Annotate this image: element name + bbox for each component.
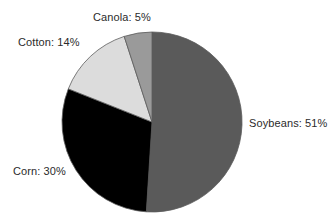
pie-chart-graphic bbox=[0, 0, 333, 223]
pie-label-corn: Corn: 30% bbox=[13, 165, 66, 178]
pie-chart: Canola: 5% Cotton: 14% Soybeans: 51% Cor… bbox=[0, 0, 333, 223]
pie-label-cotton: Cotton: 14% bbox=[18, 36, 80, 49]
pie-label-canola: Canola: 5% bbox=[93, 11, 151, 24]
pie-slices bbox=[62, 32, 242, 212]
pie-label-soybeans: Soybeans: 51% bbox=[249, 117, 327, 130]
pie-slice-soybeans[interactable] bbox=[146, 32, 242, 212]
